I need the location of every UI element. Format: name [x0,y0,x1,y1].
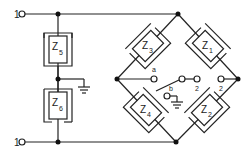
output-right-label: 2 [219,85,223,92]
impedance-z5: Z 5 [44,33,72,66]
svg-text:3: 3 [149,47,153,54]
svg-text:Z: Z [202,40,208,51]
impedance-z4: Z 4 [123,87,168,132]
node-bottom-left [56,140,61,145]
terminal-a-label: a [152,66,156,73]
node-bottom-bridge [174,140,179,145]
node-top-bridge [176,12,181,17]
node-bridge-right [236,77,241,82]
output-right-terminal [218,76,224,82]
output-left-terminal [194,76,200,82]
circuit-diagram: 1 1 Z 5 Z 6 Z [0,0,249,156]
svg-text:6: 6 [59,105,63,112]
terminal-b-label: b [169,85,173,92]
terminal-a [151,76,157,82]
svg-text:1: 1 [209,47,213,54]
svg-text:Z: Z [201,104,207,115]
node-top-left [56,12,61,17]
node-bridge-left [115,77,120,82]
impedance-z6: Z 6 [44,89,72,122]
switch-arm [156,80,179,91]
svg-text:5: 5 [59,49,63,56]
terminal-b [164,93,170,99]
output-left-label: 2 [195,85,199,92]
input-top-terminal [19,11,25,17]
svg-text:Z: Z [52,97,58,108]
input-bottom-terminal [19,139,25,145]
node-mid-left [56,77,61,82]
ground-left [58,79,90,93]
svg-text:4: 4 [147,111,151,118]
svg-text:Z: Z [52,41,58,52]
svg-text:2: 2 [208,111,212,118]
impedance-z3: Z 3 [125,23,170,68]
svg-text:Z: Z [140,104,146,115]
svg-text:Z: Z [142,40,148,51]
